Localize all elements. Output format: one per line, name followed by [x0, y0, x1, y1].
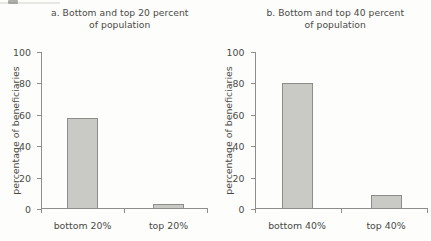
panel-b-ytick-label-100: 100 [227, 47, 245, 58]
panel-a-xtick-start [41, 209, 42, 213]
chart-panel-a: a. Bottom and top 20 percent of populati… [0, 0, 216, 241]
two-panel-bar-figure: a. Bottom and top 20 percent of populati… [0, 0, 431, 241]
panel-a-ytick-label-60: 60 [19, 109, 31, 120]
panel-a-xlabel-bottom20: bottom 20% [54, 220, 112, 231]
panel-a-xtick-end [207, 209, 208, 213]
panel-b-ytick-100: 100 [251, 52, 255, 53]
panel-b-xtick-end [427, 209, 428, 213]
panel-a-ytick-label-20: 20 [19, 172, 31, 183]
panel-b-bar-bottom40 [282, 83, 313, 209]
panel-a-ytick-label-40: 40 [19, 141, 31, 152]
panel-b-ytick-40: 40 [251, 146, 255, 147]
panel-a-ytick-20: 20 [37, 178, 41, 179]
panel-b-ytick-20: 20 [251, 178, 255, 179]
panel-b-xtick-start [255, 209, 256, 213]
panel-a-ytick-label-0: 0 [25, 204, 31, 215]
panel-b-ytick-label-20: 20 [233, 172, 245, 183]
panel-b-ytick-label-0: 0 [239, 204, 245, 215]
panel-b-y-axis-label: percentage of beneficiaries [222, 52, 236, 209]
panel-a-ytick-label-80: 80 [19, 78, 31, 89]
page-scan-artifact-mark [8, 0, 18, 4]
panel-a-ytick-label-100: 100 [13, 47, 31, 58]
panel-b-xlabel-top40: top 40% [366, 220, 405, 231]
panel-b-ytick-label-80: 80 [233, 78, 245, 89]
panel-a-xlabel-top20: top 20% [149, 220, 188, 231]
panel-a-bar-top20 [153, 204, 184, 210]
panel-a-ytick-40: 40 [37, 146, 41, 147]
panel-b-bar-top40 [371, 195, 402, 209]
panel-a-title: a. Bottom and top 20 percent of populati… [30, 7, 210, 30]
panel-b-ytick-label-60: 60 [233, 109, 245, 120]
panel-b-xlabel-bottom40: bottom 40% [268, 220, 326, 231]
panel-b-title: b. Bottom and top 40 percent of populati… [246, 7, 426, 30]
panel-a-y-axis [41, 52, 42, 209]
panel-a-ytick-60: 60 [37, 115, 41, 116]
panel-a-xtick-middle [124, 209, 125, 213]
panel-b-ytick-label-40: 40 [233, 141, 245, 152]
chart-panel-b: b. Bottom and top 40 percent of populati… [216, 0, 431, 241]
panel-a-bar-bottom20 [67, 118, 98, 209]
panel-b-xtick-middle [341, 209, 342, 213]
panel-a-ytick-80: 80 [37, 83, 41, 84]
panel-b-ytick-60: 60 [251, 115, 255, 116]
panel-b-y-axis [255, 52, 256, 209]
panel-a-y-axis-label: percentage of beneficiaries [8, 52, 22, 209]
panel-a-ytick-100: 100 [37, 52, 41, 53]
panel-b-plot-area: 0 20 40 60 80 100 bottom 40% [255, 52, 428, 209]
panel-a-plot-area: 0 20 40 60 80 100 bottom [41, 52, 208, 209]
panel-b-ytick-80: 80 [251, 83, 255, 84]
